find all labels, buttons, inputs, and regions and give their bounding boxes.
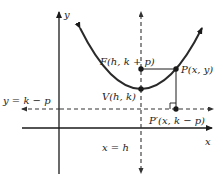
vertex-point	[138, 86, 143, 91]
focus-label: F(h, k + p)	[99, 56, 155, 67]
vertex-label: V(h, k)	[102, 91, 136, 102]
parabola-diagram: x y y = k − p x = h F(h, k + p) P(x, y) …	[0, 0, 223, 179]
directrix-label: y = k − p	[2, 95, 51, 106]
y-axis-label: y	[63, 9, 70, 20]
projection-label: P′(x, k − p)	[148, 115, 205, 126]
axis-of-symmetry-label: x = h	[102, 142, 129, 153]
focus-point	[138, 66, 143, 71]
projection-point	[173, 106, 178, 111]
x-axis-label: x	[205, 136, 211, 147]
parabola-point	[173, 66, 178, 71]
point-label: P(x, y)	[180, 64, 213, 75]
